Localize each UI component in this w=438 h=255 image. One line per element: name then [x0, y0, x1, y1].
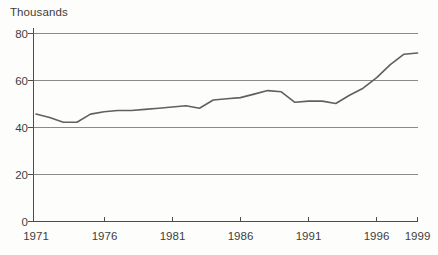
- x-tick-label-1986: 1986: [228, 230, 254, 242]
- y-tick-label-0: 0: [22, 216, 28, 228]
- x-tick-label-1981: 1981: [160, 230, 186, 242]
- x-tick-label-1971: 1971: [23, 230, 49, 242]
- x-tick-label-1991: 1991: [296, 230, 322, 242]
- line-chart-svg: 80 60 40 20 0 1971 1976 1981 1986 1991 1…: [0, 0, 438, 255]
- y-tick-label-20: 20: [15, 169, 28, 181]
- y-tick-label-40: 40: [15, 122, 28, 134]
- x-tick-label-1999: 1999: [405, 230, 431, 242]
- data-line: [36, 53, 418, 122]
- chart-figure: Thousands 80 60: [0, 0, 438, 255]
- y-tick-label-60: 60: [15, 75, 28, 87]
- x-tick-label-1996: 1996: [364, 230, 390, 242]
- x-tick-label-1976: 1976: [92, 230, 118, 242]
- y-tick-label-80: 80: [15, 28, 28, 40]
